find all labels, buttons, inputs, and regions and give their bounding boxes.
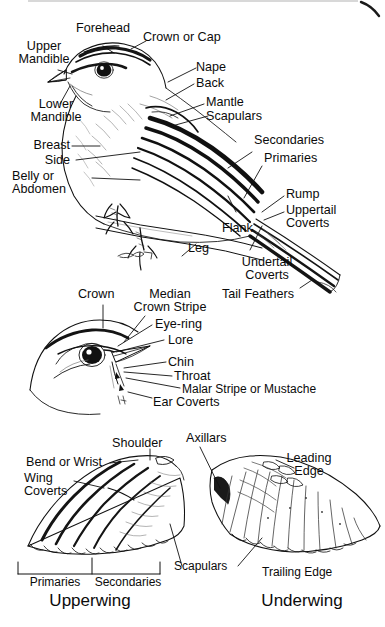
label-shoulder: Shoulder xyxy=(112,437,162,450)
label-breast: Breast xyxy=(8,139,70,152)
diagram-page: Forehead Crown or Cap Upper Mandible Low… xyxy=(0,0,385,627)
label-crown-or-cap: Crown or Cap xyxy=(143,31,221,44)
label-underwing-scapulars: Scapulars xyxy=(174,560,227,572)
label-ear-coverts: Ear Coverts xyxy=(153,396,220,409)
label-bend-or-wrist: Bend or Wrist xyxy=(26,456,102,469)
label-axillars: Axillars xyxy=(186,432,227,445)
label-scapulars: Scapulars xyxy=(206,110,262,123)
label-side: Side xyxy=(8,154,70,167)
label-leading-edge: Leading Edge xyxy=(272,452,346,478)
label-back: Back xyxy=(196,77,224,90)
caption-upperwing: Upperwing xyxy=(18,592,162,609)
label-rump: Rump xyxy=(286,188,320,201)
label-wing-coverts: Wing Coverts xyxy=(24,472,67,498)
label-chin: Chin xyxy=(168,356,194,369)
label-primaries: Primaries xyxy=(264,152,317,165)
label-lore: Lore xyxy=(168,334,193,347)
label-undertail-coverts: Undertail Coverts xyxy=(222,256,312,282)
label-throat: Throat xyxy=(174,370,210,383)
label-median-crown-stripe: Median Crown Stripe xyxy=(124,288,216,314)
label-lower-mandible: Lower Mandible xyxy=(18,98,94,124)
label-secondaries: Secondaries xyxy=(254,134,324,147)
label-upperwing-primaries: Primaries xyxy=(22,576,88,588)
label-eye-ring: Eye-ring xyxy=(155,318,202,331)
label-flank: Flank xyxy=(222,222,253,235)
label-mantle: Mantle xyxy=(206,96,244,109)
label-malar-stripe: Malar Stripe or Mustache xyxy=(182,383,316,395)
label-crown: Crown xyxy=(78,288,114,301)
label-belly-or-abdomen: Belly or Abdomen xyxy=(12,170,66,196)
label-leg: Leg xyxy=(188,242,209,255)
caption-underwing: Underwing xyxy=(230,592,374,609)
label-trailing-edge: Trailing Edge xyxy=(262,566,332,578)
label-upperwing-secondaries: Secondaries xyxy=(88,576,168,588)
label-nape: Nape xyxy=(196,61,226,74)
label-uppertail-coverts: Uppertail Coverts xyxy=(286,204,336,230)
label-tail-feathers: Tail Feathers xyxy=(222,288,294,301)
label-upper-mandible: Upper Mandible xyxy=(6,40,82,66)
label-forehead: Forehead xyxy=(55,22,151,35)
